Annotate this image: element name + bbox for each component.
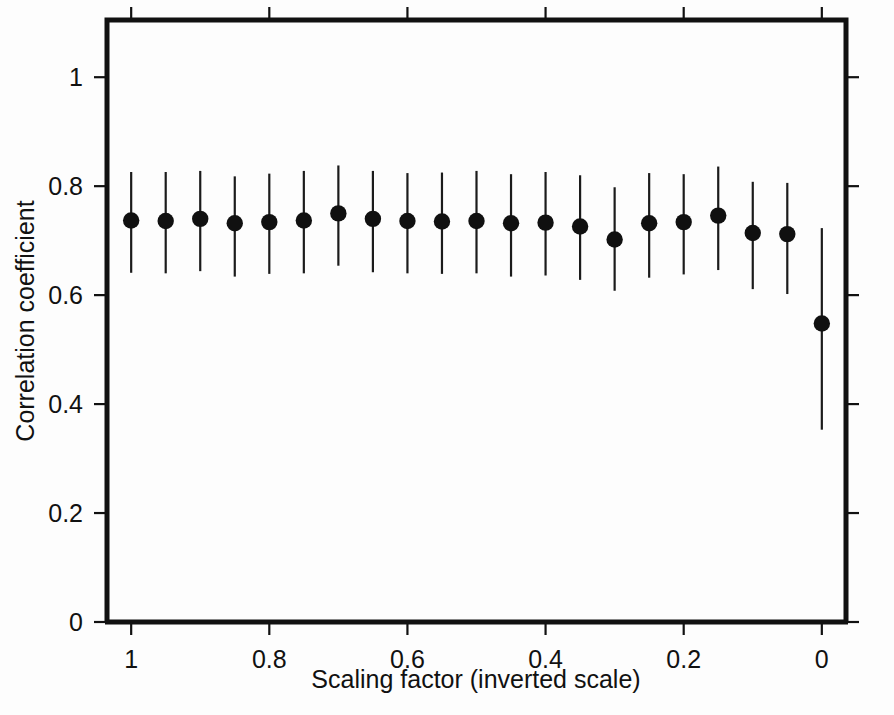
data-point-6 <box>330 165 346 265</box>
marker-12 <box>537 214 553 230</box>
data-point-16 <box>675 174 691 274</box>
marker-1 <box>158 213 174 229</box>
marker-20 <box>814 315 830 331</box>
data-point-1 <box>158 172 174 273</box>
x-tick-label-5: 0 <box>815 645 829 673</box>
data-point-15 <box>641 173 657 278</box>
y-tick-label-3: 0.6 <box>48 281 83 309</box>
data-point-20 <box>814 228 830 430</box>
data-point-19 <box>779 183 795 294</box>
y-tick-label-2: 0.4 <box>48 390 83 418</box>
data-point-10 <box>468 171 484 273</box>
marker-0 <box>123 212 139 228</box>
data-point-13 <box>572 175 588 280</box>
x-axis-title: Scaling factor (inverted scale) <box>311 665 640 693</box>
data-points-layer <box>123 165 830 429</box>
plot-frame <box>105 20 848 622</box>
marker-14 <box>606 231 622 247</box>
x-tick-label-4: 0.2 <box>666 645 701 673</box>
data-point-3 <box>227 176 243 276</box>
marker-5 <box>296 212 312 228</box>
x-tick-label-1: 0.8 <box>252 645 287 673</box>
data-point-17 <box>710 167 726 271</box>
marker-16 <box>675 214 691 230</box>
y-tick-label-0: 0 <box>69 608 83 636</box>
data-point-2 <box>192 171 208 271</box>
data-point-7 <box>365 171 381 272</box>
marker-2 <box>192 211 208 227</box>
marker-17 <box>710 207 726 223</box>
y-axis-title: Correlation coefficient <box>11 200 39 441</box>
data-point-9 <box>434 173 450 274</box>
marker-11 <box>503 215 519 231</box>
marker-10 <box>468 213 484 229</box>
data-point-0 <box>123 172 139 273</box>
marker-6 <box>330 205 346 221</box>
data-point-8 <box>399 173 415 273</box>
y-tick-label-1: 0.2 <box>48 499 83 527</box>
marker-13 <box>572 218 588 234</box>
data-point-4 <box>261 174 277 274</box>
x-tick-label-0: 1 <box>124 645 138 673</box>
data-point-12 <box>537 172 553 276</box>
marker-8 <box>399 213 415 229</box>
marker-18 <box>745 225 761 241</box>
data-point-14 <box>606 187 622 291</box>
marker-19 <box>779 226 795 242</box>
correlation-scatter-chart: 10.80.60.40.20 00.20.40.60.81 Scaling fa… <box>0 0 894 715</box>
y-tick-label-5: 1 <box>69 63 83 91</box>
marker-7 <box>365 211 381 227</box>
marker-4 <box>261 214 277 230</box>
data-point-11 <box>503 174 519 276</box>
data-point-18 <box>745 182 761 289</box>
marker-15 <box>641 215 657 231</box>
data-point-5 <box>296 171 312 273</box>
y-axis-tick-labels: 00.20.40.60.81 <box>48 63 83 636</box>
marker-3 <box>227 215 243 231</box>
marker-9 <box>434 213 450 229</box>
y-tick-label-4: 0.8 <box>48 172 83 200</box>
figure-container: 10.80.60.40.20 00.20.40.60.81 Scaling fa… <box>0 0 894 715</box>
